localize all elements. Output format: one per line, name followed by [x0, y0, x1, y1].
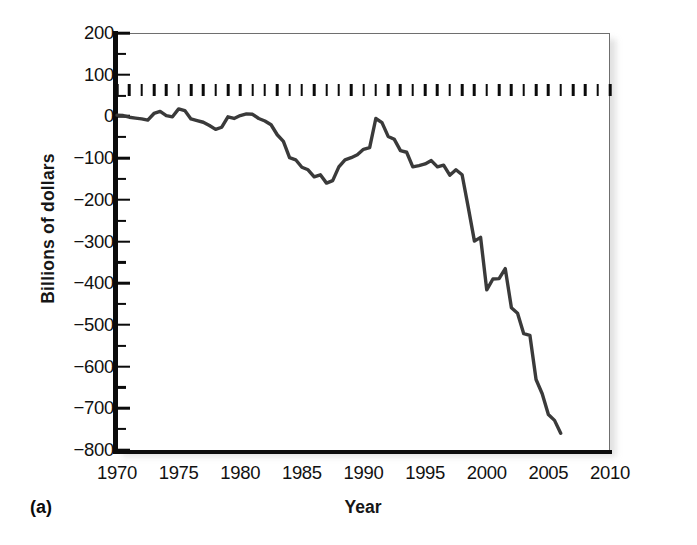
x-axis-tick [448, 84, 451, 96]
y-axis-tick-label: −700 [58, 397, 114, 419]
plot-area [116, 33, 610, 451]
y-axis-major-tick [117, 199, 130, 202]
y-axis-tick-label: 200 [58, 22, 114, 44]
x-axis-tick [276, 84, 279, 96]
x-axis-tick-label-group: 197019751980198519901995200020052010 [0, 462, 697, 492]
y-axis-tick-label: −300 [58, 231, 114, 253]
x-axis-tick [116, 84, 119, 96]
x-axis-tick [301, 84, 304, 96]
y-axis-major-tick [117, 73, 130, 76]
y-axis-major-tick [117, 282, 130, 285]
y-axis-major-tick [117, 449, 130, 452]
y-axis-tick-label: 0 [58, 105, 114, 127]
x-axis-tick [436, 84, 439, 96]
x-axis-tick [547, 84, 550, 96]
x-axis-tick [214, 84, 217, 96]
y-axis-minor-tick [117, 53, 126, 55]
y-axis-tick-label-group: 2001000−100−200−300−400−500−600−700−800 [58, 24, 114, 452]
y-axis-tick-label: −400 [58, 272, 114, 294]
x-axis-tick [522, 84, 525, 96]
x-axis-tick [485, 84, 488, 96]
x-axis-tick [412, 84, 415, 96]
x-axis-tick [313, 84, 316, 96]
x-axis-tick [239, 84, 242, 96]
y-axis-title: Billions of dollars [38, 119, 59, 339]
y-axis-tick-label: −200 [58, 189, 114, 211]
y-axis-minor-tick [117, 303, 126, 305]
y-axis-major-tick [117, 365, 130, 368]
x-axis-tick [264, 84, 267, 96]
x-axis-tick [165, 84, 168, 96]
x-axis-tick [177, 84, 180, 96]
x-axis-tick [584, 84, 587, 96]
y-axis-minor-tick [117, 136, 126, 138]
x-axis-tick [387, 84, 390, 96]
x-axis-title: Year [116, 497, 610, 518]
x-axis-tick [227, 84, 230, 96]
y-axis-minor-tick [117, 428, 126, 430]
x-axis-tick [153, 84, 156, 96]
x-axis-tick [473, 84, 476, 96]
x-axis-tick [424, 84, 427, 96]
x-axis-tick [128, 84, 131, 96]
x-axis-tick [375, 84, 378, 96]
y-axis-tick-label: 100 [58, 64, 114, 86]
y-axis-minor-tick [117, 178, 126, 180]
panel-label: (a) [30, 497, 52, 518]
x-axis-tick [325, 84, 328, 96]
x-axis-line [113, 450, 612, 455]
x-axis-tick [461, 84, 464, 96]
y-axis-major-tick [117, 407, 130, 410]
x-axis-tick-label: 2010 [565, 462, 655, 484]
y-axis-major-tick [117, 324, 130, 327]
x-axis-tick [609, 84, 612, 96]
y-axis-major-tick [117, 157, 130, 160]
x-axis-tick [498, 84, 501, 96]
x-axis-tick [559, 84, 562, 96]
x-axis-tick [288, 84, 291, 96]
x-axis-tick [190, 84, 193, 96]
y-axis-tick-label: −100 [58, 147, 114, 169]
y-axis-major-tick [117, 32, 130, 35]
x-axis-tick [596, 84, 599, 96]
y-axis-major-tick [117, 115, 130, 118]
y-axis-minor-tick [117, 261, 126, 263]
figure-root: Billions of dollars 2001000−100−200−300−… [0, 0, 697, 545]
x-axis-tick [510, 84, 513, 96]
x-axis-tick [251, 84, 254, 96]
x-axis-tick [140, 84, 143, 96]
x-axis-tick [535, 84, 538, 96]
x-axis-tick [399, 84, 402, 96]
x-axis-tick [202, 84, 205, 96]
x-axis-tick [572, 84, 575, 96]
x-axis-tick [350, 84, 353, 96]
x-axis-tick [362, 84, 365, 96]
x-axis-tick [338, 84, 341, 96]
y-axis-minor-tick [117, 220, 126, 222]
y-axis-tick-label: −600 [58, 356, 114, 378]
y-axis-minor-tick [117, 386, 126, 388]
y-axis-major-tick [117, 240, 130, 243]
y-axis-tick-label: −500 [58, 314, 114, 336]
y-axis-minor-tick [117, 345, 126, 347]
y-axis-tick-label: −800 [58, 439, 114, 461]
